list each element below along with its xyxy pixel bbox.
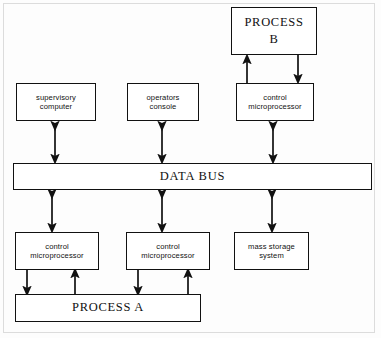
node-operators-console-label-2: console	[150, 102, 177, 111]
node-supervisory-computer-label-1: supervisory	[36, 93, 76, 102]
node-data-bus[interactable]: DATA BUS	[13, 163, 372, 190]
node-process-a-label: PROCESS A	[72, 300, 144, 315]
node-control-microprocessor-middle-label-2: microprocessor	[141, 251, 194, 260]
node-control-microprocessor-top-label-1: control	[263, 93, 287, 102]
node-supervisory-computer[interactable]: supervisory computer	[16, 83, 96, 121]
node-operators-console-label-1: operators	[147, 93, 180, 102]
node-control-microprocessor-left[interactable]: control microprocessor	[15, 232, 99, 270]
node-process-b-label-1: PROCESS	[244, 14, 303, 31]
node-data-bus-label: DATA BUS	[160, 169, 225, 184]
node-supervisory-computer-label-2: computer	[40, 102, 72, 111]
node-mass-storage-system[interactable]: mass storage system	[234, 232, 309, 270]
node-process-a[interactable]: PROCESS A	[15, 294, 201, 322]
node-mass-storage-system-label-2: system	[259, 251, 284, 260]
node-process-b-label-2: B	[269, 31, 278, 48]
node-control-microprocessor-left-label-1: control	[45, 242, 69, 251]
node-control-microprocessor-top[interactable]: control microprocessor	[236, 83, 314, 121]
node-process-b[interactable]: PROCESS B	[231, 7, 317, 55]
node-control-microprocessor-middle[interactable]: control microprocessor	[126, 232, 210, 270]
diagram-canvas: PROCESS B supervisory computer operators…	[0, 0, 381, 338]
node-control-microprocessor-middle-label-1: control	[156, 242, 180, 251]
node-mass-storage-system-label-1: mass storage	[248, 242, 295, 251]
node-operators-console[interactable]: operators console	[127, 83, 199, 121]
node-control-microprocessor-top-label-2: microprocessor	[248, 102, 301, 111]
node-control-microprocessor-left-label-2: microprocessor	[30, 251, 83, 260]
